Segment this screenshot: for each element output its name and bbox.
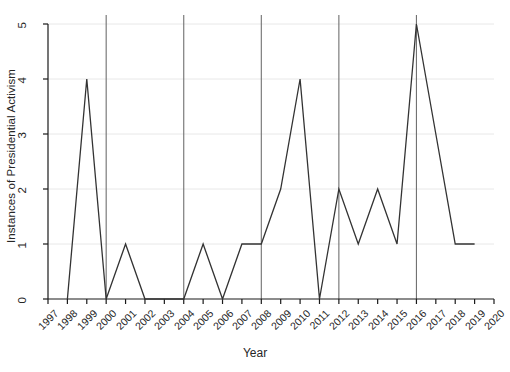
axis-lines xyxy=(48,24,494,299)
y-tick-label: 4 xyxy=(16,77,28,99)
y-tick-label: 0 xyxy=(16,297,28,319)
election-year-reference-lines xyxy=(106,15,416,299)
y-axis-title-wrap: Instances of Presidential Activism xyxy=(0,0,22,312)
y-tick-label: 3 xyxy=(16,132,28,154)
line-chart: Instances of Presidential Activism 01234… xyxy=(0,0,510,372)
y-tick-label: 2 xyxy=(16,187,28,209)
axis-ticks xyxy=(43,24,494,304)
gridlines xyxy=(48,24,494,244)
y-tick-label: 5 xyxy=(16,22,28,44)
data-series-line xyxy=(67,24,474,299)
x-axis-title: Year xyxy=(0,346,510,360)
y-tick-label: 1 xyxy=(16,242,28,264)
